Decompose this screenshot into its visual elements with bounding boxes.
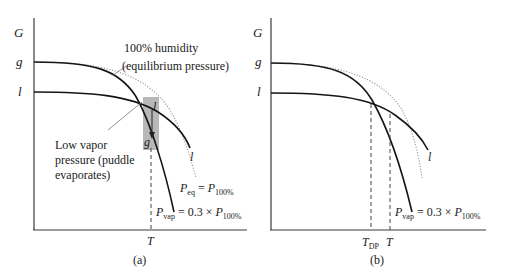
gas-curve-b — [271, 63, 412, 212]
g-label-a: g — [16, 54, 23, 69]
peq-equation: Peq = P100% — [179, 181, 234, 197]
tdp-tick-label: TDP — [362, 235, 379, 251]
humidity-label-line2: (equilibrium pressure) — [122, 59, 229, 73]
low-vapor-label-line1: Low vapor — [55, 138, 107, 152]
equilibrium-curve-b — [271, 63, 422, 178]
humidity-label-line1: 100% humidity — [124, 41, 198, 55]
t-tick-label-b: T — [386, 235, 394, 249]
liquid-curve-b — [271, 93, 428, 150]
pvap-equation-a: Pvap = 0.3 × P100% — [155, 205, 242, 221]
caption-b: (b) — [370, 253, 384, 267]
gibbs-free-energy-diagram: G g l l g T 100% humidity (equilibrium p… — [0, 0, 507, 278]
caption-a: (a) — [133, 253, 146, 267]
pvap-equation-b: Pvap = 0.3 × P100% — [394, 205, 481, 221]
g-label-b: g — [255, 54, 262, 69]
t-tick-label-a: T — [147, 234, 155, 248]
panel-a: G g l l g T 100% humidity (equilibrium p… — [14, 18, 247, 267]
panel-b: G g l l Pvap = 0.3 × P100% TDP T (b) — [253, 18, 486, 267]
gas-curve-a — [34, 62, 174, 212]
y-axis-label-b: G — [253, 25, 263, 40]
liquid-curve-end-label-b: l — [428, 150, 432, 164]
l-label-b: l — [257, 84, 261, 99]
low-vapor-label-line2: pressure (puddle — [55, 153, 135, 167]
liquid-curve-end-label-a: l — [190, 150, 194, 164]
leader-low-vapor — [108, 102, 142, 130]
low-vapor-label-line3: evaporates) — [55, 168, 110, 182]
y-axis-label-a: G — [14, 25, 24, 40]
l-label-a: l — [18, 84, 22, 99]
box-label-g: g — [144, 135, 150, 149]
